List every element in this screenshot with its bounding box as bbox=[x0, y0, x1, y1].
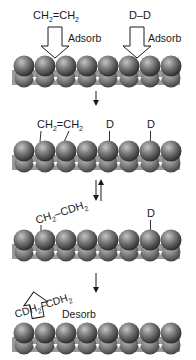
metal-surface-4 bbox=[12, 323, 182, 355]
step1-panel: CH2=CH2 D–D Adsorb Adsorb bbox=[12, 9, 182, 88]
step3-panel: CH2–CDH2 D bbox=[12, 198, 182, 262]
adsorbed-d-label-3: D bbox=[147, 207, 155, 219]
metal-surface-2 bbox=[12, 141, 182, 173]
metal-surface-3 bbox=[12, 230, 182, 262]
deuterium-label: D–D bbox=[129, 9, 151, 21]
adsorbed-d-label-1: D bbox=[106, 118, 114, 130]
adsorb-arrow-right-icon bbox=[123, 27, 151, 58]
ethyl-intermediate-label: CH2–CDH2 bbox=[34, 198, 89, 228]
desorb-label: Desorb bbox=[62, 308, 96, 320]
step4-panel: CDH2–CDH2 Desorb bbox=[12, 290, 182, 355]
bond-line bbox=[64, 131, 69, 142]
adsorbed-ethylene-label: CH2=CH2 bbox=[37, 118, 83, 132]
adsorb-label-right: Adsorb bbox=[148, 32, 181, 44]
reaction-diagram: CH2=CH2 D–D Adsorb Adsorb CH2=CH2 D D CH… bbox=[0, 0, 196, 360]
equilibrium-arrows-icon bbox=[96, 180, 101, 201]
bond-line bbox=[40, 131, 41, 142]
adsorbed-d-label-2: D bbox=[147, 118, 155, 130]
step2-panel: CH2=CH2 D D bbox=[12, 118, 182, 173]
ethylene-label: CH2=CH2 bbox=[33, 9, 79, 23]
adsorb-arrow-left-icon bbox=[41, 27, 69, 58]
metal-surface-1 bbox=[12, 56, 182, 88]
adsorb-label-left: Adsorb bbox=[68, 32, 101, 44]
